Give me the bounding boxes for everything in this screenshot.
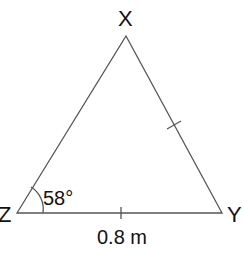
side-length-label: 0.8 m <box>97 226 147 248</box>
vertex-label-x: X <box>118 6 133 31</box>
vertex-label-z: Z <box>0 202 11 227</box>
angle-arc-z <box>31 187 43 213</box>
triangle-diagram: X Z Y 58° 0.8 m <box>0 0 244 255</box>
vertex-label-y: Y <box>227 202 242 227</box>
angle-label: 58° <box>43 187 73 209</box>
tick-mark-xy <box>167 121 181 129</box>
